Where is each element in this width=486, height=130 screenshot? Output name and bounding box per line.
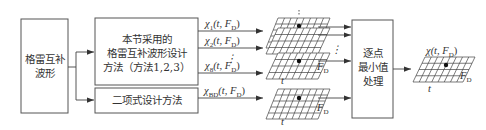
signal-label-2: χ2(t, FD) [204,35,240,49]
diagram-canvas: 格雷互补 波形 本节采用的 格雷互补波形设计 方法（方法1,2,3） 二项式设计… [0,0,486,130]
branch-connector [68,52,94,100]
signal-label-1: χ1(t, FD) [204,18,240,32]
method-binomial-label: 二项式设计方法 [112,94,182,106]
signal-label-bd: χBD(t, FD) [203,85,246,99]
source-box [21,19,68,113]
processing-line-2: 最小值 [358,61,389,73]
source-label-1: 格雷互补 [25,53,66,65]
method-main-line-1: 本节采用的 [122,33,172,45]
grid-chi-8-peak-dot [297,59,301,63]
vertical-ellipsis-right: ⋮ [331,44,342,55]
grid-chi-1-peak-dot [297,24,301,28]
grid-output-peak-dot [444,63,448,67]
method-main-line-2: 格雷互补波形设计 [107,47,188,59]
method-main-line-3: 方法（方法1,2,3） [103,61,190,73]
t-label-output: t [428,83,432,94]
grid-chi-bd-peak-dot [297,96,301,100]
processing-line-3: 处理 [363,75,384,87]
processing-line-1: 逐点 [363,47,383,59]
source-label-2: 波形 [35,67,56,79]
